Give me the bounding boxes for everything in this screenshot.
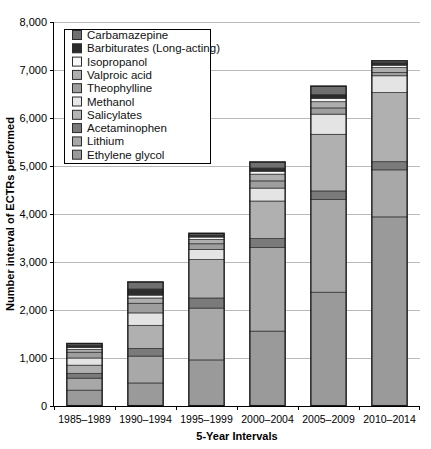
bar-segment: [128, 325, 164, 348]
chart-legend: CarbamazepineBarbiturates (Long-acting)I…: [65, 29, 221, 164]
x-tick-label: 1990–1994: [119, 413, 172, 425]
bar-segment: [189, 250, 225, 260]
bar-segment: [128, 313, 164, 325]
bar-segment: [67, 378, 103, 390]
legend-swatch: [73, 150, 82, 159]
bar-segment: [250, 181, 286, 188]
bar-segment: [128, 303, 164, 313]
legend-label: Ethylene glycol: [87, 149, 164, 161]
bar-segment: [189, 244, 225, 250]
bar-segment: [372, 93, 408, 162]
bar-segment: [311, 292, 347, 406]
bar-segment: [250, 174, 286, 181]
legend-swatch: [73, 97, 82, 106]
bar-segment: [311, 134, 347, 191]
x-tick-label: 1985–1989: [58, 413, 111, 425]
bar-segment: [372, 170, 408, 217]
bar-segment: [311, 114, 347, 134]
y-tick-label: 5,000: [19, 160, 47, 172]
bar-segment: [372, 72, 408, 75]
bar-segment: [250, 331, 286, 406]
bar-segment: [311, 102, 347, 108]
bar-segment: [250, 188, 286, 201]
bar-segment: [250, 248, 286, 332]
legend-label: Isopropanol: [87, 56, 147, 68]
bar-segment: [250, 171, 286, 174]
legend-swatch: [73, 84, 82, 93]
bar-segment: [250, 168, 286, 171]
legend-label: Acetaminophen: [87, 122, 167, 134]
bar-segment: [311, 86, 347, 95]
bar-segment: [311, 98, 347, 101]
legend-swatch: [73, 57, 82, 66]
bar-segment: [189, 360, 225, 406]
bar-segment: [311, 108, 347, 114]
bar-segment: [128, 383, 164, 406]
bar-segment: [67, 358, 103, 365]
x-tick-label: 1995–1999: [180, 413, 233, 425]
bar-segment: [67, 352, 103, 358]
y-tick-label: 3,000: [19, 256, 47, 268]
bar-segment: [189, 298, 225, 308]
bar-segment: [128, 295, 164, 298]
legend-swatch: [73, 31, 82, 40]
legend-label: Theophylline: [87, 82, 152, 94]
x-axis-title: 5-Year Intervals: [196, 430, 277, 442]
bar-segment: [189, 308, 225, 360]
bar-segment: [311, 191, 347, 200]
chart-figure: 01,0002,0003,0004,0005,0006,0007,0008,00…: [0, 0, 431, 449]
bar-segment: [372, 162, 408, 170]
bar-segment: [250, 201, 286, 238]
legend-label: Methanol: [87, 96, 134, 108]
bar-segment: [67, 349, 103, 352]
bar-segment: [128, 282, 164, 289]
y-tick-label: 2,000: [19, 304, 47, 316]
y-tick-label: 4,000: [19, 208, 47, 220]
legend-swatch: [73, 110, 82, 119]
legend-swatch: [73, 137, 82, 146]
stacked-bar-chart: 01,0002,0003,0004,0005,0006,0007,0008,00…: [0, 0, 431, 449]
y-tick-label: 7,000: [19, 64, 47, 76]
legend-swatch: [73, 44, 82, 53]
y-tick-label: 8,000: [19, 16, 47, 28]
bar-segment: [67, 390, 103, 406]
bar-segment: [372, 76, 408, 93]
legend-swatch: [73, 70, 82, 79]
bar-segment: [189, 260, 225, 298]
bar-segment: [128, 356, 164, 383]
y-tick-label: 0: [41, 400, 47, 412]
bar-segment: [372, 62, 408, 65]
bar-segment: [372, 68, 408, 73]
bar-segment: [128, 348, 164, 356]
y-tick-label: 6,000: [19, 112, 47, 124]
bar-segment: [67, 365, 103, 373]
bar-segment: [372, 217, 408, 406]
legend-label: Salicylates: [87, 109, 142, 121]
bar-segment: [128, 298, 164, 303]
y-axis-title: Number interval of ECTRs performed: [4, 117, 16, 311]
bar-segment: [250, 238, 286, 247]
bar-segment: [311, 200, 347, 293]
x-tick-label: 2000–2004: [241, 413, 294, 425]
legend-label: Valproic acid: [87, 69, 152, 81]
legend-label: Carbamazepine: [87, 29, 168, 41]
legend-label: Barbiturates (Long-acting): [87, 42, 220, 54]
bar-segment: [128, 289, 164, 295]
bar-segment: [67, 373, 103, 378]
y-tick-label: 1,000: [19, 352, 47, 364]
x-tick-label: 2010–2014: [363, 413, 416, 425]
legend-label: Lithium: [87, 135, 124, 147]
bar-segment: [311, 94, 347, 98]
bar-segment: [189, 239, 225, 243]
x-tick-label: 2005–2009: [302, 413, 355, 425]
legend-swatch: [73, 124, 82, 133]
